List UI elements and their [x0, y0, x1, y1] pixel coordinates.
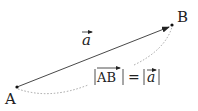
- point-a: [15, 85, 18, 88]
- diagram-svg: A B a AB = a: [0, 0, 198, 111]
- vector-diagram: A B a AB = a: [0, 0, 198, 111]
- point-b: [170, 23, 173, 26]
- dotted-arc: [18, 85, 88, 94]
- vector-a-label: a: [82, 31, 91, 49]
- equation-ab: AB: [96, 70, 116, 85]
- dotted-arc-upper: [134, 27, 172, 65]
- equation-equals: =: [128, 69, 140, 85]
- label-b: B: [177, 8, 188, 26]
- equation-a: a: [147, 69, 155, 85]
- label-a: A: [4, 90, 16, 108]
